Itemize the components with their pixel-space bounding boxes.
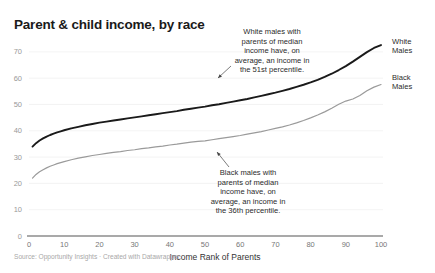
y-axis-tick-label: 10 xyxy=(14,205,22,214)
y-axis-tick-label: 20 xyxy=(14,179,22,188)
x-axis-tick-labels: 0102030405060708090100 xyxy=(27,240,387,249)
annotation-line: the 51st percentile. xyxy=(240,65,304,74)
y-axis-tick-label: 60 xyxy=(14,74,22,83)
annotation-line: the 36th percentile. xyxy=(216,206,281,215)
annotation-black-males: Black males withparents of medianincome … xyxy=(211,168,286,215)
x-axis-tick-label: 30 xyxy=(130,240,138,249)
series-label-black-males: BlackMales xyxy=(392,73,412,91)
data-series-group xyxy=(33,45,381,178)
series-line-black-males xyxy=(33,85,381,179)
y-axis-tick-label: 40 xyxy=(14,126,22,135)
x-axis-tick-label: 70 xyxy=(271,240,279,249)
annotation-line: White males with xyxy=(243,27,300,36)
annotation-line: parents of median xyxy=(242,37,303,46)
series-label-line: White xyxy=(392,37,411,46)
series-line-white-males xyxy=(33,45,381,147)
annotation-line: average, an income in xyxy=(235,56,310,65)
y-axis-tick-label: 0 xyxy=(18,232,22,241)
annotation-line: income have, on xyxy=(244,46,300,55)
annotation-line: income have, on xyxy=(220,187,276,196)
x-axis-tick-label: 90 xyxy=(342,240,350,249)
x-axis-tick-label: 50 xyxy=(201,240,209,249)
x-axis-tick-label: 100 xyxy=(375,240,388,249)
series-label-white-males: WhiteMales xyxy=(392,37,412,55)
series-label-line: Black xyxy=(392,73,411,82)
annotation-line: Black males with xyxy=(220,168,277,177)
series-label-line: Males xyxy=(392,46,412,55)
x-axis-tick-label: 0 xyxy=(27,240,31,249)
x-axis-tick-label: 60 xyxy=(236,240,244,249)
x-axis-tick-label: 40 xyxy=(166,240,174,249)
annotation-white-males: White males withparents of medianincome … xyxy=(235,27,310,74)
source-note: Source: Opportunity Insights · Created w… xyxy=(14,253,180,260)
y-axis-tick-label: 30 xyxy=(14,153,22,162)
chart-plot-area: 010203040506070 0102030405060708090100 W… xyxy=(0,0,435,273)
y-axis-tick-label: 50 xyxy=(14,100,22,109)
x-axis-title: Income Rank of Parents xyxy=(169,252,260,262)
y-axis-tick-label: 70 xyxy=(14,47,22,56)
y-axis-tick-labels: 010203040506070 xyxy=(14,47,22,240)
x-axis-tick-label: 20 xyxy=(95,240,103,249)
annotation-line: average, an income in xyxy=(211,197,286,206)
x-axis-tick-label: 10 xyxy=(60,240,68,249)
annotation-line: parents of median xyxy=(218,178,279,187)
chart-container: Parent & child income, by race 010203040… xyxy=(0,0,435,273)
series-label-line: Males xyxy=(392,82,412,91)
x-axis-tick-label: 80 xyxy=(306,240,314,249)
annotations-group: White males withparents of medianincome … xyxy=(211,27,413,215)
